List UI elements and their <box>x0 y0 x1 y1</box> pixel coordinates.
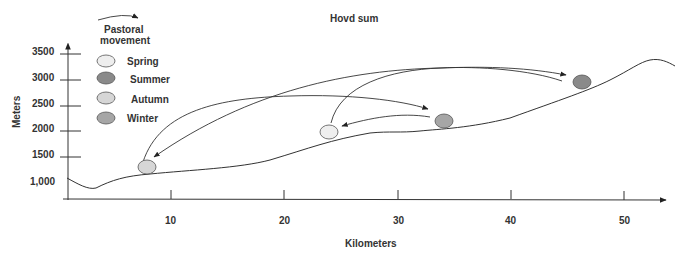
y-tick-1500: 1500 <box>32 149 55 160</box>
movement-routes <box>143 67 566 162</box>
camp-autumn-circle-icon <box>138 160 156 174</box>
y-tick-2500: 2500 <box>32 98 55 109</box>
route-winter-to-spring <box>342 115 430 126</box>
legend: Pastoral movement Spring Summer Autumn W… <box>97 15 170 124</box>
legend-label-winter: Winter <box>127 113 158 124</box>
legend-winter-circle-icon <box>97 112 115 124</box>
x-axis-line <box>63 199 666 200</box>
legend-label-summer: Summer <box>130 74 170 85</box>
x-tick-50: 50 <box>619 215 631 226</box>
y-tick-2000: 2000 <box>32 123 55 134</box>
route-summer-to-autumn <box>154 68 562 157</box>
x-tick-20: 20 <box>279 215 291 226</box>
y-axis-label: Meters <box>11 95 22 128</box>
pastoral-movement-diagram: Hovd sum Pastoral movement Spring Summer… <box>0 0 675 255</box>
x-tick-30: 30 <box>393 215 405 226</box>
legend-autumn-circle-icon <box>97 92 115 104</box>
y-tick-3000: 3000 <box>32 72 55 83</box>
diagram-title: Hovd sum <box>330 13 378 24</box>
camp-spring-circle-icon <box>320 125 338 139</box>
route-autumn-to-winter <box>143 96 428 162</box>
legend-summer-circle-icon <box>97 72 115 84</box>
legend-spring-circle-icon <box>97 55 115 67</box>
legend-title-line2: movement <box>100 35 151 46</box>
x-axis-label: Kilometers <box>345 238 397 249</box>
x-axis: 10 20 30 40 50 Kilometers <box>63 190 666 249</box>
y-axis: 3500 3000 2500 2000 1500 1,000 Meters <box>11 46 81 200</box>
x-tick-10: 10 <box>165 215 177 226</box>
y-tick-3500: 3500 <box>32 46 55 57</box>
seasonal-camps <box>138 75 591 174</box>
x-tick-40: 40 <box>505 215 517 226</box>
legend-label-autumn: Autumn <box>131 94 169 105</box>
camp-winter-circle-icon <box>435 114 453 128</box>
legend-title-line1: Pastoral <box>104 24 144 35</box>
y-tick-1000: 1,000 <box>30 176 55 187</box>
legend-arrow-icon <box>98 15 138 20</box>
camp-summer-circle-icon <box>573 75 591 89</box>
legend-label-spring: Spring <box>127 56 159 67</box>
